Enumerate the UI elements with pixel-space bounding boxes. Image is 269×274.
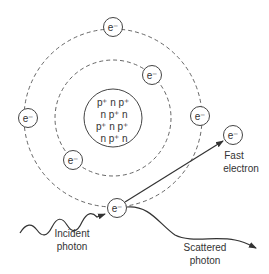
svg-text:e⁻: e⁻	[108, 22, 119, 33]
electron-inner-bottom-left: e⁻	[64, 151, 83, 170]
nucleus-row-3: p⁺ n p⁺	[96, 121, 128, 132]
svg-text:e⁻: e⁻	[23, 113, 34, 124]
scattered-photon-label-1: Scattered	[184, 242, 227, 253]
fast-electron-label-1: Fast	[224, 150, 244, 161]
fast-electron-label-2: electron	[223, 163, 259, 174]
nucleus-row-4: n p⁺ n	[100, 133, 127, 144]
svg-text:e⁻: e⁻	[68, 155, 79, 166]
svg-text:e⁻: e⁻	[147, 70, 158, 81]
electron-outer-top: e⁻	[104, 18, 123, 37]
electron-fast: e⁻	[224, 126, 243, 145]
electron-outer-left: e⁻	[19, 109, 38, 128]
scattered-photon-label-2: photon	[190, 255, 221, 266]
incident-photon-label-1: Incident	[54, 228, 89, 239]
compton-scattering-diagram: p⁺ n p⁺ n p⁺ n p⁺ n p⁺ n p⁺ n e⁻ e⁻ e⁻ e…	[0, 0, 269, 274]
nucleus-row-2: n p⁺ n	[100, 109, 127, 120]
electron-struck: e⁻	[108, 199, 127, 218]
nucleus-row-1: p⁺ n p⁺	[97, 97, 129, 108]
nucleus: p⁺ n p⁺ n p⁺ n p⁺ n p⁺ n p⁺ n	[84, 89, 142, 147]
fast-electron-arrow	[125, 141, 223, 202]
svg-text:e⁻: e⁻	[112, 203, 123, 214]
svg-text:e⁻: e⁻	[228, 130, 239, 141]
electron-outer-right: e⁻	[191, 107, 210, 126]
incident-photon-label-2: photon	[57, 241, 88, 252]
svg-text:e⁻: e⁻	[195, 111, 206, 122]
electron-inner-top-right: e⁻	[143, 66, 162, 85]
